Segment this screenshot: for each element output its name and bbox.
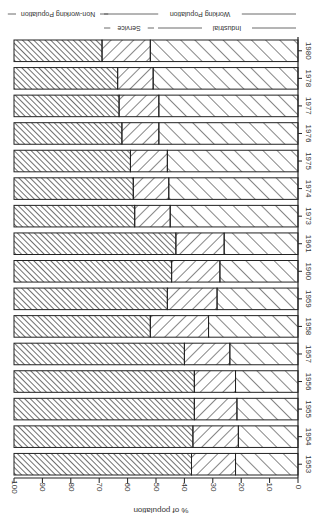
segment-service [119,95,159,117]
bars-group [14,40,298,475]
segment-non-working [14,288,167,310]
year-label: 1960 [304,262,313,280]
bar-1960 [14,261,298,283]
x-tick-label: 100 [10,480,19,494]
bar-1978 [14,68,298,90]
legend-working-population: Working Population [170,10,231,18]
year-label: 1978 [304,69,313,87]
x-tick-label: 0 [294,485,303,490]
legend: IndustrialServiceWorking PopulationNon-w… [8,10,296,32]
segment-non-working [14,426,193,448]
segment-non-working [14,398,194,420]
segment-industrial [159,95,298,117]
segment-industrial [236,453,298,475]
year-label: 1958 [304,318,313,336]
segment-service [130,150,167,172]
segment-non-working [14,40,102,62]
segment-industrial [169,178,298,200]
segment-non-working [14,233,176,255]
bar-1980 [14,40,298,62]
bar-1959 [14,288,298,310]
year-label: 1977 [304,97,313,115]
x-tick-label: 70 [95,483,104,492]
x-tick-label: 50 [152,483,161,492]
segment-industrial [220,261,298,283]
y-axis-labels: 1953195419551956195719581959196019611973… [298,42,313,474]
x-tick-label: 90 [38,483,47,492]
segment-industrial [159,123,298,145]
segment-industrial [167,150,298,172]
chart-container: 0102030405060708090100 19531954195519561… [0,0,322,520]
segment-industrial [238,426,298,448]
year-label: 1956 [304,373,313,391]
segment-service [118,68,154,90]
year-label: 1953 [304,455,313,473]
segment-service [194,371,235,393]
segment-industrial [170,205,298,227]
segment-service [172,261,220,283]
segment-non-working [14,178,133,200]
segment-industrial [150,40,298,62]
segment-service [192,453,236,475]
year-label: 1959 [304,290,313,308]
stacked-bar-chart: 0102030405060708090100 19531954195519561… [0,0,322,520]
bar-1958 [14,316,298,338]
x-tick-label: 30 [209,483,218,492]
year-label: 1961 [304,235,313,253]
year-label: 1974 [304,180,313,198]
segment-industrial [224,233,298,255]
segment-industrial [217,288,298,310]
segment-service [193,426,238,448]
bar-1977 [14,95,298,117]
x-tick-label: 80 [67,483,76,492]
segment-service [102,40,150,62]
segment-industrial [153,68,298,90]
bar-1974 [14,178,298,200]
x-tick-label: 10 [265,483,274,492]
rotated-plot-group: 0102030405060708090100 19531954195519561… [8,10,313,516]
segment-non-working [14,316,150,338]
bar-1956 [14,371,298,393]
bar-1955 [14,398,298,420]
segment-non-working [14,453,192,475]
legend-industrial: Industrial [212,25,241,32]
year-label: 1957 [304,345,313,363]
year-label: 1976 [304,125,313,143]
segment-service [150,316,208,338]
segment-non-working [14,123,122,145]
bar-1961 [14,233,298,255]
legend-non-working-population: Non-working Population [21,10,95,18]
segment-non-working [14,205,135,227]
bar-1975 [14,150,298,172]
segment-non-working [14,371,194,393]
bar-1976 [14,123,298,145]
bar-1954 [14,426,298,448]
segment-non-working [14,261,172,283]
year-label: 1973 [304,207,313,225]
segment-industrial [236,371,298,393]
segment-industrial [209,316,298,338]
segment-non-working [14,343,184,365]
bar-1953 [14,453,298,475]
year-label: 1955 [304,400,313,418]
bar-1973 [14,205,298,227]
segment-service [133,178,169,200]
year-label: 1980 [304,42,313,60]
year-label: 1975 [304,152,313,170]
segment-service [167,288,217,310]
segment-service [184,343,229,365]
legend-service: Service [117,25,140,32]
segment-non-working [14,150,130,172]
segment-service [194,398,237,420]
bar-1957 [14,343,298,365]
year-label: 1954 [304,428,313,446]
segment-non-working [14,95,119,117]
segment-industrial [230,343,298,365]
segment-non-working [14,68,118,90]
segment-service [176,233,224,255]
x-tick-label: 40 [180,483,189,492]
segment-industrial [237,398,298,420]
segment-service [122,123,159,145]
x-axis-label: % of population [133,506,188,515]
x-tick-label: 20 [237,483,246,492]
